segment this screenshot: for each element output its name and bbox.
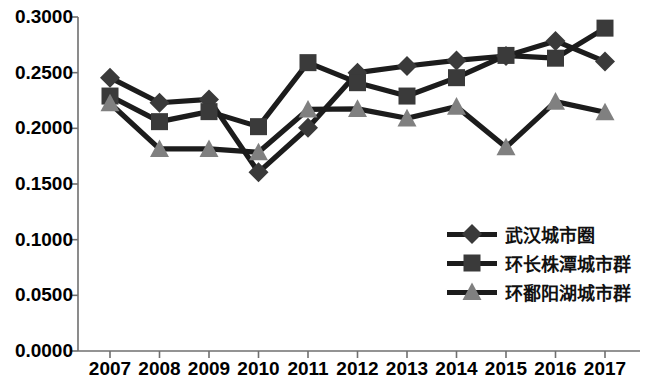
legend-label: 武汉城市圈 (505, 221, 595, 247)
data-point (399, 88, 416, 105)
x-tick-label: 2012 (336, 358, 378, 380)
legend-label: 环长株潭城市群 (505, 250, 631, 276)
data-point (300, 54, 317, 71)
y-axis-tick-labels: 0.00000.05000.10000.15000.20000.25000.30… (0, 0, 73, 382)
data-point (151, 113, 168, 130)
x-axis-tick-labels: 2007200820092010201120122013201420152016… (0, 358, 647, 382)
x-tick-label: 2009 (188, 358, 230, 380)
chart-legend: 武汉城市圈环长株潭城市群环鄱阳湖城市群 (447, 219, 647, 306)
data-point (349, 74, 366, 91)
y-tick-label: 0.1500 (15, 173, 73, 195)
data-point (100, 68, 120, 88)
x-tick-label: 2017 (584, 358, 626, 380)
x-tick-label: 2016 (534, 358, 576, 380)
data-point (448, 69, 465, 86)
data-point (498, 47, 515, 64)
x-tick-label: 2011 (287, 358, 328, 380)
data-point (595, 52, 615, 72)
legend-marker-diamond-icon (447, 223, 497, 245)
legend-symbol (459, 250, 485, 276)
data-point (250, 118, 267, 135)
y-tick-label: 0.2000 (15, 117, 73, 139)
y-tick-label: 0.2500 (15, 62, 73, 84)
x-tick-label: 2015 (485, 358, 527, 380)
y-tick-label: 0.3000 (15, 6, 73, 28)
legend-symbol (459, 221, 485, 247)
x-tick-label: 2007 (89, 358, 131, 380)
data-point (447, 50, 467, 70)
line-chart: 0.00000.05000.10000.15000.20000.25000.30… (0, 0, 647, 382)
legend-symbol (459, 279, 485, 305)
legend-label: 环鄱阳湖城市群 (505, 279, 631, 305)
x-tick-label: 2014 (435, 358, 477, 380)
legend-item-1: 武汉城市圈 (447, 219, 647, 248)
x-tick-label: 2010 (237, 358, 279, 380)
chart-canvas (0, 0, 647, 382)
legend-item-2: 环长株潭城市群 (447, 248, 647, 277)
data-point (397, 56, 417, 76)
legend-marker-triangle-icon (447, 281, 497, 303)
legend-item-3: 环鄱阳湖城市群 (447, 277, 647, 306)
y-tick-label: 0.0500 (15, 284, 73, 306)
data-point (546, 31, 566, 51)
y-tick-label: 0.1000 (15, 229, 73, 251)
x-tick-label: 2008 (138, 358, 180, 380)
data-point (597, 20, 614, 37)
data-point (150, 93, 170, 113)
data-point (547, 50, 564, 67)
data-point (201, 103, 218, 120)
x-tick-label: 2013 (386, 358, 428, 380)
legend-marker-square-icon (447, 252, 497, 274)
